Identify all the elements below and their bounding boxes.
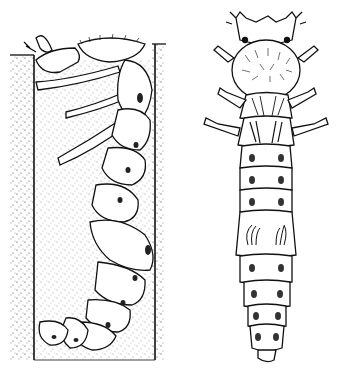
illustration-canvas: [0, 0, 342, 379]
burrow-view: [10, 34, 166, 360]
dorsal-view: [204, 12, 328, 362]
larva-illustration: [0, 0, 342, 379]
